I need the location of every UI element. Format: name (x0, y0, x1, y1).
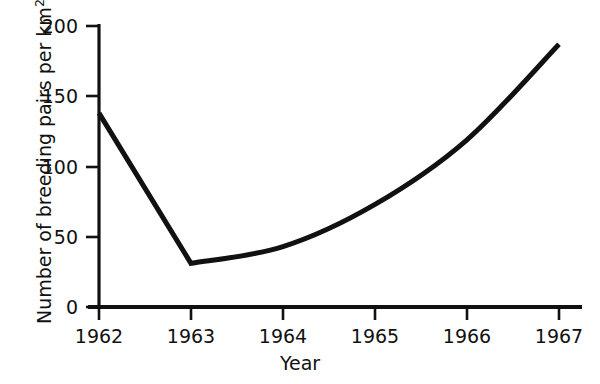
x-tick-label-1964: 1964 (259, 325, 307, 347)
x-tick-label-1965: 1965 (351, 325, 399, 347)
x-axis-ticks (99, 307, 559, 320)
x-tick-label-1962: 1962 (75, 325, 123, 347)
x-axis-title: Year (0, 352, 600, 374)
y-axis-title-text: Number of breeding pairs per km (33, 7, 55, 324)
x-tick-label-1966: 1966 (443, 325, 491, 347)
chart-figure: 200 150 100 50 0 1962 1963 1964 1965 196… (0, 0, 600, 384)
x-tick-label-1963: 1963 (167, 325, 215, 347)
x-tick-label-1967: 1967 (535, 325, 583, 347)
y-axis-ticks (86, 26, 99, 307)
data-series-line (99, 44, 559, 263)
y-axis-title-superscript: 2 (32, 0, 47, 7)
y-axis-title: Number of breeding pairs per km2 (33, 24, 55, 324)
